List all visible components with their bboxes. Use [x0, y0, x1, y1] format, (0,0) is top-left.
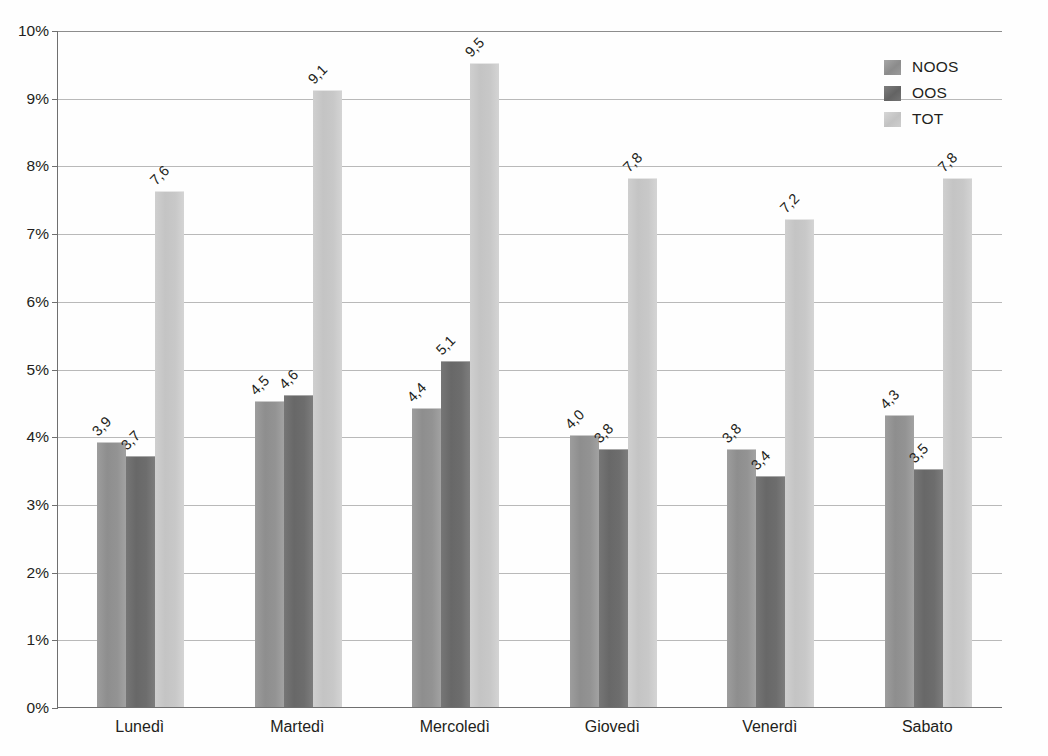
bar-tot-lunedì[interactable] — [155, 191, 184, 707]
y-axis-tick-label: 8% — [0, 157, 49, 175]
bar-value-label: 7,6 — [147, 163, 173, 189]
bar-value-label: 3,8 — [719, 420, 745, 446]
chart-legend: NOOSOOSTOT — [884, 55, 958, 133]
bar-tot-mercoledì[interactable] — [470, 63, 499, 707]
y-axis-tick — [52, 640, 58, 641]
bar-group: 4,03,87,8 — [570, 31, 657, 707]
gridline — [58, 166, 1002, 167]
y-axis-tick — [52, 302, 58, 303]
gridline — [58, 234, 1002, 235]
y-axis-tick — [52, 505, 58, 506]
y-axis-tick-label: 4% — [0, 428, 49, 446]
gridline — [58, 437, 1002, 438]
y-axis-tick-label: 10% — [0, 22, 49, 40]
gridline — [58, 99, 1002, 100]
bar-oos-venerdì[interactable] — [756, 476, 785, 707]
bar-value-label: 7,8 — [934, 149, 960, 175]
bar-oos-sabato[interactable] — [914, 469, 943, 707]
bar-group: 3,83,47,2 — [727, 31, 814, 707]
x-axis-label-sabato: Sabato — [902, 718, 953, 736]
bar-value-label: 7,2 — [777, 190, 803, 216]
y-axis-tick-label: 5% — [0, 361, 49, 379]
legend-item-oos[interactable]: OOS — [884, 81, 958, 105]
bar-tot-martedì[interactable] — [313, 90, 342, 707]
bar-value-label: 3,9 — [89, 413, 115, 439]
legend-swatch-oos — [884, 86, 901, 101]
y-axis-tick-label: 9% — [0, 90, 49, 108]
legend-label: TOT — [912, 110, 943, 128]
gridline — [58, 302, 1002, 303]
gridline — [58, 505, 1002, 506]
legend-swatch-noos — [884, 60, 901, 75]
gridline — [58, 573, 1002, 574]
bar-noos-venerdì[interactable] — [727, 449, 756, 707]
y-axis-tick-label: 0% — [0, 699, 49, 717]
y-axis-tick — [52, 99, 58, 100]
bar-value-label: 9,1 — [304, 61, 330, 87]
y-axis-tick-label: 2% — [0, 564, 49, 582]
y-axis-tick-label: 1% — [0, 631, 49, 649]
bar-value-label: 4,6 — [275, 366, 301, 392]
bar-noos-giovedì[interactable] — [570, 435, 599, 707]
y-axis-tick — [52, 166, 58, 167]
y-axis-tick — [52, 234, 58, 235]
x-axis-label-giovedì: Giovedì — [585, 718, 640, 736]
bar-value-label: 9,5 — [462, 34, 488, 60]
bar-value-label: 7,8 — [619, 149, 645, 175]
bar-value-label: 4,5 — [246, 373, 272, 399]
bar-value-label: 4,3 — [876, 386, 902, 412]
legend-item-tot[interactable]: TOT — [884, 107, 958, 131]
y-axis-tick-label: 6% — [0, 293, 49, 311]
x-axis-label-lunedì: Lunedì — [115, 718, 164, 736]
bar-group: 3,93,77,6 — [97, 31, 184, 707]
bar-value-label: 4,4 — [404, 380, 430, 406]
bar-noos-mercoledì[interactable] — [412, 408, 441, 707]
bar-value-label: 5,1 — [433, 332, 459, 358]
y-axis-tick — [52, 370, 58, 371]
legend-swatch-tot — [884, 112, 901, 127]
x-axis-label-martedì: Martedì — [270, 718, 324, 736]
y-axis-tick-label: 3% — [0, 496, 49, 514]
bar-tot-giovedì[interactable] — [628, 178, 657, 707]
legend-label: OOS — [912, 84, 947, 102]
bar-oos-martedì[interactable] — [284, 395, 313, 707]
bar-tot-venerdì[interactable] — [785, 219, 814, 707]
gridline — [58, 640, 1002, 641]
bar-noos-martedì[interactable] — [255, 401, 284, 707]
x-axis-label-mercoledì: Mercoledì — [420, 718, 490, 736]
y-axis-tick — [52, 31, 58, 32]
y-axis-tick-label: 7% — [0, 225, 49, 243]
bar-oos-lunedì[interactable] — [126, 456, 155, 707]
legend-label: NOOS — [912, 58, 958, 76]
y-axis-tick — [52, 573, 58, 574]
bar-oos-giovedì[interactable] — [599, 449, 628, 707]
chart-page: 0%1%2%3%4%5%6%7%8%9%10% 3,93,77,64,54,69… — [0, 0, 1048, 756]
bar-value-label: 4,0 — [561, 407, 587, 433]
bar-tot-sabato[interactable] — [943, 178, 972, 707]
y-axis-tick — [52, 437, 58, 438]
bar-noos-lunedì[interactable] — [97, 442, 126, 707]
x-axis-label-venerdì: Venerdì — [742, 718, 797, 736]
bar-group: 4,45,19,5 — [412, 31, 499, 707]
bar-oos-mercoledì[interactable] — [441, 361, 470, 707]
y-axis-tick — [52, 708, 58, 709]
gridline — [58, 370, 1002, 371]
gridline — [58, 31, 1002, 32]
legend-item-noos[interactable]: NOOS — [884, 55, 958, 79]
bar-group: 4,54,69,1 — [255, 31, 342, 707]
plot-area: 3,93,77,64,54,69,14,45,19,54,03,87,83,83… — [57, 31, 1002, 708]
